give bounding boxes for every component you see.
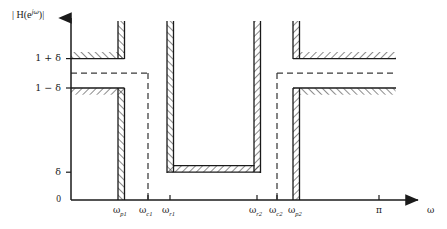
y-axis-title-bar1: | H(e (12, 9, 32, 20)
y-axis-title-exponent: jω (32, 8, 39, 16)
xtick-omega-r1-sub: r1 (169, 210, 175, 217)
xtick-omega-c2-sub: c2 (276, 210, 282, 217)
y-axis-title-bar2: )| (39, 9, 44, 20)
xtick-label-omega-p1: ωp1 (113, 206, 127, 217)
ytick-label-zero: 0 (18, 195, 61, 205)
xtick-label-omega-r1: ωr1 (162, 206, 175, 217)
omega-p2-vertical-hatch (293, 21, 300, 200)
xtick-omega-r2-sub: r2 (256, 210, 262, 217)
xtick-label-omega-c2: ωc2 (269, 206, 282, 217)
xtick-label-omega-p2: ωp2 (288, 206, 302, 217)
stopband-u-hatch (167, 21, 261, 173)
passband2-lower-hatch (293, 88, 396, 95)
xtick-label-pi: π (376, 206, 382, 215)
xtick-omega-p2-sub: p2 (295, 210, 302, 217)
ytick-label-delta: δ (18, 167, 61, 177)
y-axis-title: | H(ejω)| (12, 9, 44, 20)
ytick-label-one-plus-delta: 1 + δ (18, 53, 61, 63)
plot-canvas (0, 0, 447, 229)
xtick-label-omega-r2: ωr2 (249, 206, 262, 217)
filter-tolerance-scheme-figure: | H(ejω)| 1 + δ 1 − δ δ 0 ωp1 ωc1 ωr1 ωr… (0, 0, 447, 229)
x-axis-title: ω (427, 206, 434, 215)
passband2-upper-hatch (293, 52, 396, 59)
passband1-upper-hatch (71, 52, 125, 59)
omega-p1-vertical-hatch (118, 21, 125, 200)
passband1-lower-hatch (71, 88, 125, 95)
xtick-label-omega-c1: ωc1 (139, 206, 152, 217)
ytick-label-one-minus-delta: 1 − δ (18, 83, 61, 93)
xtick-omega-c1-sub: c1 (146, 210, 152, 217)
xtick-omega-p1-sub: p1 (120, 210, 127, 217)
